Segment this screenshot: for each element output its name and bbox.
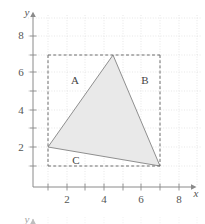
x-axis-label: x xyxy=(193,187,199,199)
y-axis-label: y xyxy=(24,6,30,18)
x-tick-label-6: 6 xyxy=(138,193,144,205)
x-tick-label-2: 2 xyxy=(64,193,70,205)
region-label-b: B xyxy=(141,74,148,86)
x-tick-label-8: 8 xyxy=(176,193,182,205)
y-tick-label-4: 4 xyxy=(18,104,24,116)
y-axis-arrow-icon xyxy=(30,12,36,17)
y-tick-label-6: 6 xyxy=(18,66,24,78)
y-tick-label-8: 8 xyxy=(18,29,24,41)
region-label-a: A xyxy=(71,74,79,86)
y-tick-label-2: 2 xyxy=(18,141,24,153)
next-y-axis-arrow-icon xyxy=(30,219,36,224)
figure-container: 2 4 6 8 2 4 6 8 y x A B C xyxy=(0,0,205,224)
next-y-axis-label: y xyxy=(24,213,30,224)
next-figure-preview: y xyxy=(24,213,197,224)
region-label-c: C xyxy=(72,154,79,166)
x-tick-label-4: 4 xyxy=(101,193,107,205)
coordinate-plane-chart: 2 4 6 8 2 4 6 8 y x A B C xyxy=(0,0,205,224)
